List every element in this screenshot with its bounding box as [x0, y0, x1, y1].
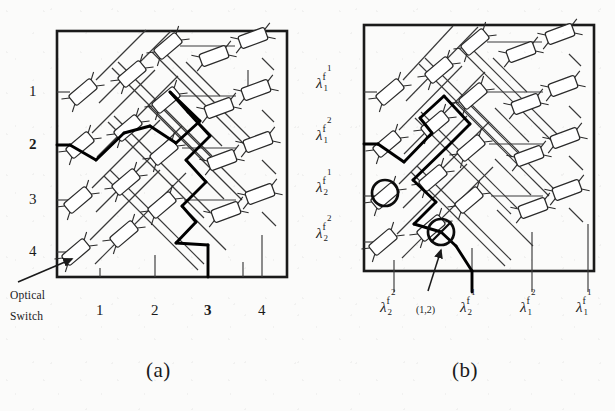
panel-b-input-4-freq-index: 2 — [327, 214, 332, 223]
lambda-subscript: 1 — [324, 84, 329, 93]
panel-b-output-2-freq-index: 1 — [471, 288, 476, 297]
freq-superscript: f — [527, 296, 530, 306]
lambda-subscript: 2 — [324, 234, 329, 243]
diagram-canvas — [0, 0, 615, 411]
panel-b-input-label-2: λ f 1 — [316, 128, 334, 146]
panel-b-group — [361, 19, 594, 292]
panel-b-output-label-2: λ f 2 — [460, 300, 478, 318]
panel-b-input-1-freq-index: 1 — [327, 64, 332, 73]
optical-switch-label-line2: Switch — [10, 311, 43, 323]
lambda-subscript: 2 — [324, 188, 329, 197]
optical-switch-arrow — [18, 259, 72, 282]
panel-b-input-label-3: λ f 2 — [316, 180, 334, 198]
panel-b-output-1-freq-index: 2 — [391, 288, 396, 297]
panel-a-group — [18, 23, 287, 282]
freq-superscript: f — [583, 296, 586, 306]
lambda-subscript: 2 — [388, 308, 393, 317]
panel-b-output-label-3: λ f 1 — [520, 300, 538, 318]
lambda-subscript: 2 — [468, 308, 473, 317]
panel-b-output-3-freq-index: 2 — [531, 288, 536, 297]
lambda-subscript: 1 — [324, 136, 329, 145]
panel-a-caption: (a) — [146, 360, 171, 381]
panel-a-switches — [54, 23, 282, 272]
panel-a-output-label-2: 2 — [151, 303, 159, 318]
panel-a-input-label-3: 3 — [29, 192, 37, 207]
panel-b-output-4-freq-index: 1 — [587, 288, 592, 297]
panel-b-output-label-4: λ f 1 — [576, 300, 594, 318]
panel-b-input-2-freq-index: 2 — [327, 116, 332, 125]
freq-superscript: f — [323, 72, 326, 82]
panel-b-output-label-1: λ f 2 — [380, 300, 398, 318]
freq-superscript: f — [467, 296, 470, 306]
panel-b-input-3-freq-index: 1 — [327, 168, 332, 177]
panel-b-caption: (b) — [452, 360, 478, 381]
panel-a-input-label-4: 4 — [29, 244, 37, 259]
panel-b-input-label-4: λ f 2 — [316, 226, 334, 244]
freq-superscript: f — [387, 296, 390, 306]
figure-root: 1 2 3 4 1 2 3 4 Optical Switch (a) λ f 1… — [0, 0, 615, 411]
panel-a-input-label-2: 2 — [29, 137, 37, 152]
panel-a-input-label-1: 1 — [29, 84, 37, 99]
pair-annotation-label: (1,2) — [416, 305, 435, 315]
optical-switch-label-line1: Optical — [10, 290, 45, 302]
freq-superscript: f — [323, 176, 326, 186]
lambda-subscript: 1 — [528, 308, 533, 317]
panel-a-output-label-3: 3 — [204, 303, 212, 318]
panel-a-output-label-4: 4 — [258, 303, 266, 318]
panel-b-switches — [361, 19, 589, 262]
panel-b-input-label-1: λ f 1 — [316, 76, 334, 94]
freq-superscript: f — [323, 124, 326, 134]
panel-a-output-label-1: 1 — [96, 303, 104, 318]
freq-superscript: f — [323, 222, 326, 232]
lambda-subscript: 1 — [584, 308, 589, 317]
